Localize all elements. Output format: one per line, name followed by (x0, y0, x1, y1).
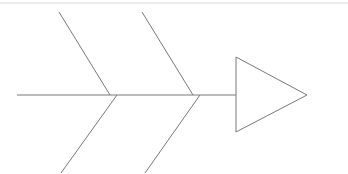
rib-1-lower-bone (61, 95, 117, 173)
rib-2-upper-bone (142, 12, 193, 95)
rib-1-upper-bone (59, 12, 110, 95)
rib-2-lower-bone (145, 95, 200, 173)
fish-head-triangle (236, 57, 307, 132)
fishbone-diagram-svg (0, 0, 348, 174)
fishbone-diagram-canvas (0, 0, 348, 174)
